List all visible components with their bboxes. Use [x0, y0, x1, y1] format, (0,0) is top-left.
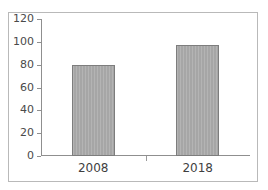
y-axis-tick-label: 100: [13, 35, 34, 48]
y-axis-tick-label: 0: [27, 149, 34, 162]
bar-chart-figure: 020406080100120 20082018: [0, 0, 268, 190]
x-axis-category-label: 2018: [146, 160, 251, 176]
y-axis-tick-label: 20: [20, 126, 34, 139]
x-axis-category-divider: [146, 156, 147, 161]
y-axis-tick-label: 40: [20, 103, 34, 116]
y-axis-tick-label: 60: [20, 81, 34, 94]
plot-area: [41, 19, 250, 156]
bar: [176, 45, 219, 156]
x-axis-category-label: 2008: [41, 160, 146, 176]
bar: [72, 65, 115, 156]
y-axis-tick-label: 80: [20, 58, 34, 71]
y-axis-tick-label: 120: [13, 12, 34, 25]
x-axis-category-labels: 20082018: [41, 156, 250, 181]
